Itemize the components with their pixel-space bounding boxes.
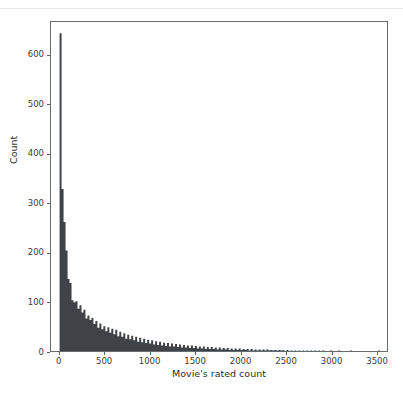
- x-tick-mark: [286, 352, 287, 355]
- y-tick-label: 0: [12, 348, 44, 357]
- x-tick-label: 2500: [266, 357, 306, 366]
- x-tick-label: 500: [84, 357, 124, 366]
- y-tick-label: 200: [12, 248, 44, 257]
- histogram-bars-svg: [51, 22, 387, 351]
- x-tick-mark: [332, 352, 333, 355]
- x-tick-mark: [150, 352, 151, 355]
- histogram-bar-series: [60, 33, 380, 351]
- x-tick-label: 3500: [357, 357, 397, 366]
- y-tick-mark: [47, 352, 50, 353]
- cell-divider: [0, 8, 403, 9]
- x-tick-mark: [377, 352, 378, 355]
- x-tick-label: 0: [39, 357, 79, 366]
- y-tick-mark: [47, 203, 50, 204]
- histogram-bars: [51, 22, 387, 351]
- y-tick-label: 500: [12, 100, 44, 109]
- x-tick-mark: [104, 352, 105, 355]
- plot-area: [50, 21, 388, 352]
- x-tick-label: 1500: [175, 357, 215, 366]
- y-tick-mark: [47, 154, 50, 155]
- y-tick-label: 600: [12, 50, 44, 59]
- y-tick-label: 100: [12, 298, 44, 307]
- x-tick-mark: [241, 352, 242, 355]
- y-tick-mark: [47, 302, 50, 303]
- histogram-figure: 0100200300400500600 05001000150020002500…: [0, 0, 403, 395]
- x-tick-label: 1000: [130, 357, 170, 366]
- x-tick-label: 2000: [221, 357, 261, 366]
- x-axis-label: Movie's rated count: [50, 369, 388, 379]
- x-tick-mark: [195, 352, 196, 355]
- y-tick-mark: [47, 104, 50, 105]
- x-tick-mark: [59, 352, 60, 355]
- y-tick-mark: [47, 55, 50, 56]
- x-tick-label: 3000: [312, 357, 352, 366]
- y-axis-label: Count: [9, 136, 19, 164]
- y-tick-label: 300: [12, 199, 44, 208]
- y-tick-mark: [47, 253, 50, 254]
